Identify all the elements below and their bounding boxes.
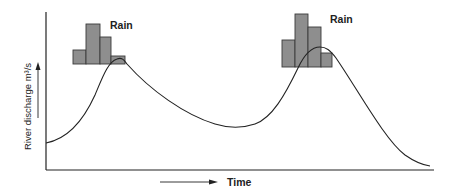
hydrograph-curve — [46, 47, 430, 166]
y-arrow-head-icon — [36, 62, 41, 70]
rain-bars-2 — [282, 14, 332, 67]
y-axis-label: River discharge m³/s — [22, 63, 33, 150]
x-arrow-head-icon — [209, 180, 218, 185]
rain-label-1: Rain — [110, 19, 133, 31]
x-axis-label: Time — [227, 176, 251, 188]
y-axis-label-group: River discharge m³/s — [22, 63, 33, 150]
rain-label-2: Rain — [330, 13, 353, 25]
hydrograph-diagram: Rain Rain River discharge m³/s Time — [0, 0, 455, 195]
